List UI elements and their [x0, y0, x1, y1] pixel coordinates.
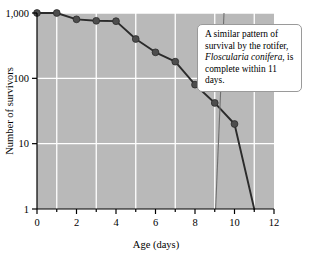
y-tick-label: 10 — [19, 138, 30, 149]
x-tick-label: 12 — [269, 217, 280, 228]
annotation-line-1: A similar pattern of — [205, 29, 278, 39]
y-axis-ticks — [32, 13, 37, 209]
annotation-line-2: survival by the rotifer, — [205, 41, 288, 51]
x-axis-ticks — [37, 209, 274, 214]
figure-container: 024681012 1101001,000 Age (days) Number … — [0, 0, 314, 258]
x-tick-label: 4 — [113, 217, 119, 228]
y-tick-label: 100 — [13, 73, 29, 84]
x-tick-label: 10 — [229, 217, 240, 228]
annotation-species-name: Floscularia conifera — [205, 52, 282, 62]
x-axis-label: Age (days) — [133, 239, 180, 251]
x-tick-label: 0 — [34, 217, 39, 228]
x-tick-label: 2 — [74, 217, 79, 228]
x-tick-label: 8 — [192, 217, 197, 228]
y-tick-label: 1,000 — [5, 8, 29, 19]
annotation-line-4: complete within 11 days. — [205, 64, 277, 86]
y-axis-label: Number of survivors — [4, 67, 15, 155]
x-axis-tick-labels: 024681012 — [34, 217, 279, 228]
x-tick-label: 6 — [153, 217, 158, 228]
annotation-line-3-rest: , is — [282, 52, 293, 62]
rotifer-annotation-box: A similar pattern of survival by the rot… — [197, 24, 302, 92]
y-tick-label: 1 — [24, 204, 29, 215]
